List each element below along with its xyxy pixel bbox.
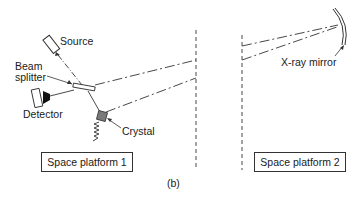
source-label: Source xyxy=(60,35,93,47)
crystal-label: Crystal xyxy=(122,125,155,137)
beam-splitter xyxy=(73,83,95,91)
crystal-spring-icon xyxy=(93,122,99,141)
xray-mirror-label: X-ray mirror xyxy=(281,56,337,68)
detector-beam xyxy=(50,90,74,96)
source-component xyxy=(43,35,60,56)
upper-beam-1 xyxy=(95,60,196,85)
detector-label: Detector xyxy=(23,108,63,120)
source-box xyxy=(43,35,60,53)
source-emitter xyxy=(55,52,60,56)
beam-splitter-label-2: splitter xyxy=(15,71,46,83)
lower-beam-1 xyxy=(106,78,196,112)
detector-box xyxy=(31,88,43,107)
space-platform-1: Space platform 1 xyxy=(41,152,133,172)
interferometer-diagram: Source Beam splitter Detector Crystal X-… xyxy=(0,0,363,204)
crystal xyxy=(96,110,107,121)
detector-cone xyxy=(43,91,50,104)
figure-caption: (b) xyxy=(167,177,180,189)
space-platform-2: Space platform 2 xyxy=(254,152,346,172)
xray-mirror-inner xyxy=(333,9,343,45)
beam-splitter-arrowhead xyxy=(67,80,72,84)
crystal-beam xyxy=(88,91,100,112)
